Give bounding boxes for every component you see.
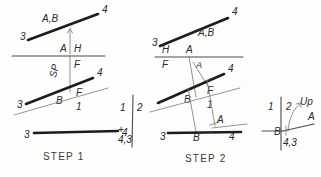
step2-caption: STEP 2 (185, 153, 226, 164)
step1-group: 3 4 A,B A H F SP 3 4 B F 1 (12, 4, 128, 162)
step2-bottom-end-right-label: 4 (229, 131, 235, 142)
step2-fold-label-H: H (162, 44, 170, 55)
step1-bottom-line (34, 131, 118, 133)
step1-top-view-line (28, 14, 98, 40)
aux-middle-divider (132, 95, 133, 147)
aux-right-point-coord-label: 4,3 (283, 137, 297, 148)
aux-right-left-number: 1 (268, 101, 274, 112)
step1-bottom-end-left-label: 3 (24, 129, 30, 140)
step1-front-end-left-label: 3 (17, 99, 23, 110)
step2-front-point-a-label: A (216, 114, 224, 125)
aux-right-group: 1 2 Up A B 4,3 (262, 96, 315, 150)
step1-fold-label-F: F (74, 59, 81, 70)
step1-fold-label-A: A (59, 43, 67, 54)
step2-top-line-name-label: A,B (197, 27, 214, 38)
step2-rotation-leg-left (189, 57, 196, 97)
step1-top-end-right-label: 4 (102, 4, 108, 15)
step2-group: 3 4 A,B H A F A 4 B F 1 A (150, 6, 247, 164)
aux-right-point-a-label: A (307, 111, 315, 122)
step2-top-view-line (160, 18, 228, 46)
step2-fold-label-A-top: A (185, 44, 193, 55)
step1-aux-reference-line (14, 88, 108, 115)
step1-sight-point-label: SP (47, 63, 61, 79)
step2-fold-label-F: F (162, 59, 169, 70)
step2-fold-inner-point-label: A (195, 60, 202, 70)
aux-middle-right-number: 2 (136, 102, 143, 113)
sketch-page: 3 4 A,B A H F SP 3 4 B F 1 (0, 0, 321, 177)
step1-plane-f-label: F (76, 87, 83, 98)
step2-projector-left (188, 88, 196, 132)
aux-middle-group: 1 2 + 4,3 (118, 95, 143, 147)
step1-fold-label-H: H (74, 43, 82, 54)
step2-front-end-right-label: 4 (228, 63, 234, 74)
step1-caption: STEP 1 (43, 151, 84, 162)
step2-bottom-point-b-label: B (193, 132, 200, 143)
aux-middle-point-label: 4,3 (118, 134, 132, 145)
step1-top-end-left-label: 3 (20, 31, 26, 42)
step1-front-end-right-label: 4 (97, 67, 103, 78)
step2-top-end-left-label: 3 (152, 37, 158, 48)
aux-middle-left-number: 1 (120, 102, 126, 113)
geometry-sketch: 3 4 A,B A H F SP 3 4 B F 1 (0, 0, 321, 177)
aux-right-direction-label: Up (300, 96, 313, 107)
step2-bottom-end-left-label: 3 (160, 131, 166, 142)
aux-right-point-b-label: B (274, 126, 281, 137)
step2-top-end-right-label: 4 (232, 6, 238, 17)
step2-front-view-line (158, 74, 224, 103)
aux-right-right-number: 2 (285, 101, 292, 112)
aux-right-line-ba (283, 124, 314, 131)
step1-front-point-b-label: B (56, 95, 63, 106)
step1-plane-1-label: 1 (76, 101, 82, 112)
step1-top-line-name-label: A,B (41, 13, 58, 24)
